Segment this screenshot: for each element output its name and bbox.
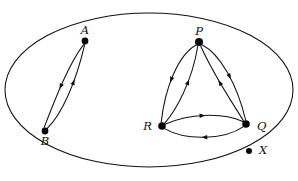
vertex-a — [82, 38, 89, 45]
vertex-x — [246, 148, 252, 154]
graph-figure: ABPQRX — [0, 0, 298, 181]
edge-p-to-q — [202, 45, 246, 120]
vertex-label-p: P — [194, 24, 203, 38]
vertex-q — [242, 120, 250, 128]
edge-r-to-q — [166, 115, 243, 124]
arrowhead-q-to-p — [218, 80, 223, 86]
vertices-layer: ABPQRX — [40, 23, 268, 157]
vertex-p — [195, 38, 203, 46]
graph-canvas: ABPQRX — [0, 0, 298, 181]
arrowhead-r-to-q — [199, 114, 205, 118]
arrowhead-p-to-q — [226, 73, 231, 79]
arrowhead-r-to-p — [185, 79, 189, 85]
arrowhead-q-to-r — [202, 135, 208, 139]
edge-p-to-r — [161, 45, 196, 122]
vertex-r — [158, 122, 166, 130]
vertex-label-b: B — [40, 134, 49, 148]
edge-q-to-r — [165, 127, 244, 138]
vertex-label-x: X — [258, 143, 268, 157]
arrowhead-b-to-a — [70, 79, 74, 85]
vertex-label-a: A — [80, 23, 89, 37]
arrowhead-p-to-r — [170, 76, 174, 82]
arrowhead-a-to-b — [60, 83, 64, 89]
vertex-label-q: Q — [257, 119, 267, 133]
vertex-label-r: R — [142, 119, 152, 133]
edge-a-to-b — [44, 45, 83, 128]
edge-b-to-a — [47, 45, 85, 129]
